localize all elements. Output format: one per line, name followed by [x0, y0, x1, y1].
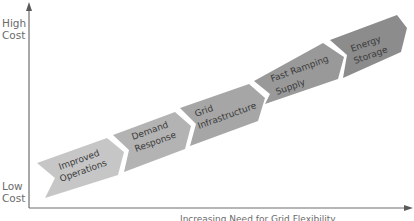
y-axis-arrowhead-icon	[26, 2, 32, 11]
step-fast-ramping-supply: Fast Ramping Supply	[254, 43, 344, 104]
step-improved-operations: Improved Operations	[37, 138, 124, 198]
step-demand-response: Demand Response	[113, 112, 191, 172]
step-grid-infrastructure: Grid Infrastructure	[180, 84, 265, 146]
step-energy-storage: Energy Storage	[330, 15, 407, 78]
diagram-canvas: Improved Operations Demand Response Grid…	[0, 0, 414, 221]
x-axis-arrowhead-icon	[404, 205, 413, 211]
x-axis-label: Increasing Need for Grid Flexibility	[180, 214, 336, 221]
